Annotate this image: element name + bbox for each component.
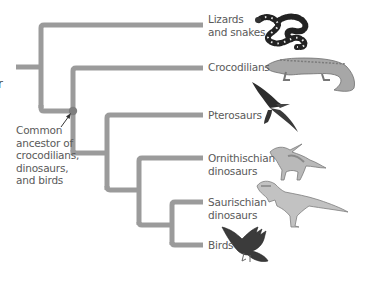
phylogenetic-tree-diagram: Lizards and snakes Crocodilians Pterosau… xyxy=(0,0,373,284)
saurischian-illustration-icon xyxy=(257,181,348,227)
taxon-label-crocodilians: Crocodilians xyxy=(208,61,270,74)
ornithischian-illustration-icon xyxy=(270,144,326,180)
taxon-label-ornithischian-dinosaurs: Ornithischian dinosaurs xyxy=(208,152,275,177)
taxon-label-birds: Birds xyxy=(208,239,233,252)
branch-birds xyxy=(172,242,203,245)
cut-off-text-fragment: r xyxy=(0,77,3,91)
branch-pterosaurs xyxy=(107,115,203,190)
taxon-label-saurischian-dinosaurs: Saurischian dinosaurs xyxy=(208,196,267,221)
common-ancestor-annotation: Common ancestor of crocodilians, dinosau… xyxy=(16,124,79,187)
crocodile-illustration-icon xyxy=(266,58,355,91)
branch-saurischia xyxy=(139,222,172,225)
branch-crocodilians xyxy=(73,68,203,155)
taxon-label-pterosaurs: Pterosaurs xyxy=(208,109,262,122)
taxon-label-lizards-and-snakes: Lizards and snakes xyxy=(208,13,265,38)
pterosaur-illustration-icon xyxy=(252,82,298,132)
branch-archosaurs xyxy=(41,105,73,111)
branch-dinosaurs xyxy=(107,186,139,190)
branch-saurischian xyxy=(172,202,203,245)
